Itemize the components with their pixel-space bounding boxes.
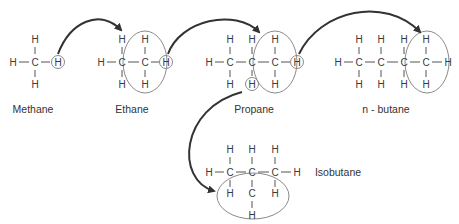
atom-c: C [377, 57, 384, 68]
atom-h: H [355, 34, 362, 45]
atom-h: H [31, 79, 38, 90]
atom-h: H [205, 167, 212, 178]
atom-h: H [248, 34, 255, 45]
atom-h: H [226, 144, 233, 155]
atom-h: H [226, 34, 233, 45]
atom-c: C [271, 57, 278, 68]
atom-h: H [31, 34, 38, 45]
atom-c: C [248, 167, 255, 178]
label-n-butane: n - butane [362, 103, 409, 115]
label-methane: Methane [13, 103, 54, 115]
atom-h: H [334, 57, 341, 68]
alkane-diagram: H H C H H Methane H H H C C H H H Ethane… [0, 0, 459, 224]
atom-h: H [118, 79, 125, 90]
atom-h: H [400, 79, 407, 90]
atom-c: C [422, 57, 429, 68]
atom-h: H [226, 188, 233, 199]
atom-c: C [248, 188, 255, 199]
molecule-propane: H H H H C C C H H H H Propane [205, 31, 303, 115]
molecule-methane: H H C H H Methane [9, 34, 64, 116]
atom-h: H [9, 57, 16, 68]
atom-h: H [141, 79, 148, 90]
arrow-methane-to-ethane [58, 19, 121, 54]
atom-h-highlighted: H [54, 57, 61, 68]
atom-h: H [293, 167, 300, 178]
atom-c: C [226, 57, 233, 68]
label-ethane: Ethane [115, 103, 148, 115]
atom-h: H [271, 144, 278, 155]
atom-c: C [355, 57, 362, 68]
atom-h: H [422, 34, 429, 45]
atom-h: H [248, 144, 255, 155]
atom-h: H [271, 79, 278, 90]
label-propane: Propane [234, 103, 274, 115]
atom-h: H [355, 79, 362, 90]
atom-c: C [271, 167, 278, 178]
atom-h: H [422, 79, 429, 90]
atom-h: H [444, 57, 451, 68]
atom-h: H [118, 34, 125, 45]
atom-h: H [271, 188, 278, 199]
molecule-isobutane: H H H H C C C H H C H H Isobutane [205, 144, 361, 221]
atom-h: H [141, 34, 148, 45]
atom-c: C [226, 167, 233, 178]
atom-h: H [248, 210, 255, 221]
atom-c: C [248, 57, 255, 68]
atom-h: H [377, 79, 384, 90]
atom-h: H [400, 34, 407, 45]
atom-c: C [400, 57, 407, 68]
atom-h: H [97, 57, 104, 68]
arrow-ethane-to-propane [168, 19, 259, 54]
atom-h: H [205, 57, 212, 68]
atom-c: C [118, 57, 125, 68]
atom-h-highlighted: H [248, 79, 255, 90]
atom-c: C [141, 57, 148, 68]
atom-h-highlighted: H [162, 57, 169, 68]
atom-h: H [271, 34, 278, 45]
molecule-ethane: H H H C C H H H Ethane [97, 31, 172, 115]
molecule-n-butane: H H H H H C C C C H H H H H n - butane [334, 31, 451, 115]
atom-h: H [226, 79, 233, 90]
label-isobutane: Isobutane [315, 166, 361, 178]
atom-h: H [377, 34, 384, 45]
atom-h-highlighted: H [293, 57, 300, 68]
atom-c: C [31, 57, 38, 68]
